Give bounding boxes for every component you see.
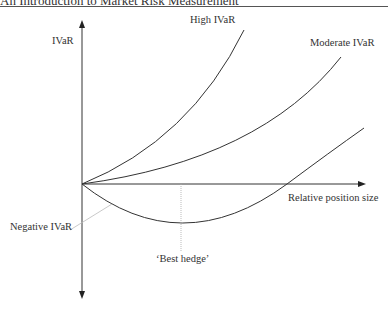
negative-ivar-label: Negative IVaR	[10, 221, 72, 232]
best-hedge-label: ‘Best hedge’	[156, 253, 209, 264]
high-ivar-curve	[82, 30, 244, 184]
high-ivar-label: High IVaR	[190, 14, 235, 25]
x-axis-label: Relative position size	[288, 192, 378, 203]
moderate-ivar-label: Moderate IVaR	[310, 37, 374, 48]
negative-ivar-curve	[82, 128, 364, 223]
y-axis-label: IVaR	[52, 35, 74, 46]
negative-ivar-leader	[70, 204, 112, 230]
